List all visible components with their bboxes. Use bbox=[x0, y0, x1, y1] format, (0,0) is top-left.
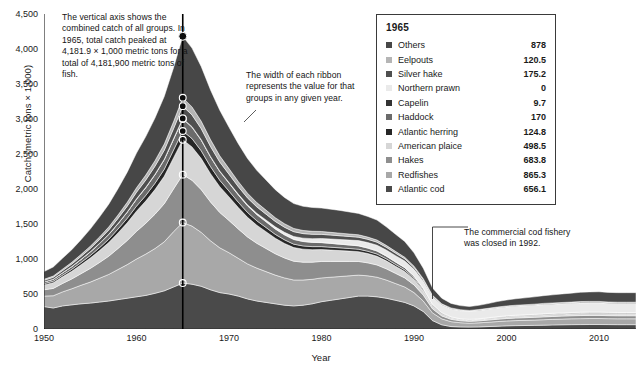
legend-item[interactable]: Haddock170 bbox=[386, 110, 546, 124]
legend-item-value: 120.5 bbox=[523, 55, 546, 65]
x-tick-label: 2000 bbox=[496, 333, 516, 343]
legend-item-value: 656.1 bbox=[523, 184, 546, 194]
highlight-marker bbox=[179, 128, 186, 135]
legend-item-label: Hakes bbox=[398, 155, 523, 165]
x-tick-label: 1960 bbox=[126, 333, 146, 343]
legend-item[interactable]: Atlantic cod656.1 bbox=[386, 182, 546, 196]
legend-item[interactable]: Others878 bbox=[386, 38, 546, 52]
legend-item[interactable]: Atlantic herring124.8 bbox=[386, 124, 546, 138]
legend-item[interactable]: Redfishes865.3 bbox=[386, 168, 546, 182]
legend-item-value: 878 bbox=[531, 40, 546, 50]
y-tick-label: 4,500 bbox=[6, 10, 38, 19]
legend-item[interactable]: Capelin9.7 bbox=[386, 96, 546, 110]
legend-item-value: 865.3 bbox=[523, 170, 546, 180]
legend-item-label: Atlantic herring bbox=[398, 127, 523, 137]
legend-swatch-icon bbox=[386, 157, 392, 163]
legend-item[interactable]: Silver hake175.2 bbox=[386, 67, 546, 81]
legend-swatch-icon bbox=[386, 172, 392, 178]
x-tick-label: 1980 bbox=[311, 333, 331, 343]
legend-item-label: Redfishes bbox=[398, 170, 523, 180]
legend-item-value: 0 bbox=[541, 83, 546, 93]
x-tick-label: 1970 bbox=[219, 333, 239, 343]
ribbon-leader-line bbox=[244, 110, 256, 122]
y-tick-label: 3,500 bbox=[6, 80, 38, 89]
highlight-marker bbox=[179, 103, 186, 110]
x-tick-label: 1990 bbox=[404, 333, 424, 343]
y-tick-label: 500 bbox=[6, 290, 38, 299]
legend-item-value: 9.7 bbox=[533, 98, 546, 108]
legend-swatch-icon bbox=[386, 85, 392, 91]
legend-item-value: 175.2 bbox=[523, 69, 546, 79]
legend-item-label: Eelpouts bbox=[398, 55, 523, 65]
legend-rows: Others878Eelpouts120.5Silver hake175.2No… bbox=[386, 38, 546, 196]
y-axis-ticks: 05001,0001,5002,0002,5003,0003,5004,0004… bbox=[4, 0, 38, 373]
legend-swatch-icon bbox=[386, 71, 392, 77]
legend-item-label: American plaice bbox=[398, 141, 523, 151]
cod-leader-line bbox=[433, 227, 469, 299]
y-tick-label: 2,500 bbox=[6, 150, 38, 159]
chart-figure: Catch (metric tons × 1,000) 05001,0001,5… bbox=[0, 0, 642, 373]
annotation-axis-note: The vertical axis shows the combined cat… bbox=[62, 12, 190, 80]
legend-item-label: Silver hake bbox=[398, 69, 523, 79]
annotation-cod-note: The commercial cod fishery was closed in… bbox=[464, 227, 588, 250]
legend-swatch-icon bbox=[386, 42, 392, 48]
legend-item-value: 124.8 bbox=[523, 127, 546, 137]
legend-swatch-icon bbox=[386, 186, 392, 192]
legend-item-value: 170 bbox=[531, 112, 546, 122]
legend: 1965 Others878Eelpouts120.5Silver hake17… bbox=[376, 14, 556, 205]
legend-item-value: 498.5 bbox=[523, 141, 546, 151]
legend-swatch-icon bbox=[386, 129, 392, 135]
y-tick-label: 4,000 bbox=[6, 45, 38, 54]
x-axis-title: Year bbox=[0, 352, 642, 363]
legend-swatch-icon bbox=[386, 114, 392, 120]
legend-item-label: Atlantic cod bbox=[398, 184, 523, 194]
legend-item-label: Others bbox=[398, 40, 531, 50]
y-tick-label: 2,000 bbox=[6, 185, 38, 194]
legend-item[interactable]: Hakes683.8 bbox=[386, 153, 546, 167]
y-tick-label: 1,000 bbox=[6, 255, 38, 264]
legend-item-label: Capelin bbox=[398, 98, 533, 108]
legend-title: 1965 bbox=[386, 22, 546, 33]
x-tick-label: 2010 bbox=[589, 333, 609, 343]
y-tick-label: 3,000 bbox=[6, 115, 38, 124]
highlight-marker bbox=[179, 94, 186, 101]
legend-item[interactable]: Eelpouts120.5 bbox=[386, 52, 546, 66]
legend-swatch-icon bbox=[386, 57, 392, 63]
legend-swatch-icon bbox=[386, 143, 392, 149]
annotation-ribbon-note: The width of each ribbon represents the … bbox=[246, 70, 366, 104]
legend-item-label: Haddock bbox=[398, 112, 531, 122]
y-tick-label: 1,500 bbox=[6, 220, 38, 229]
x-tick-label: 1950 bbox=[34, 333, 54, 343]
legend-swatch-icon bbox=[386, 100, 392, 106]
legend-item-label: Northern prawn bbox=[398, 83, 541, 93]
highlight-marker bbox=[179, 115, 186, 122]
legend-item[interactable]: American plaice498.5 bbox=[386, 139, 546, 153]
legend-item-value: 683.8 bbox=[523, 155, 546, 165]
legend-item[interactable]: Northern prawn0 bbox=[386, 81, 546, 95]
